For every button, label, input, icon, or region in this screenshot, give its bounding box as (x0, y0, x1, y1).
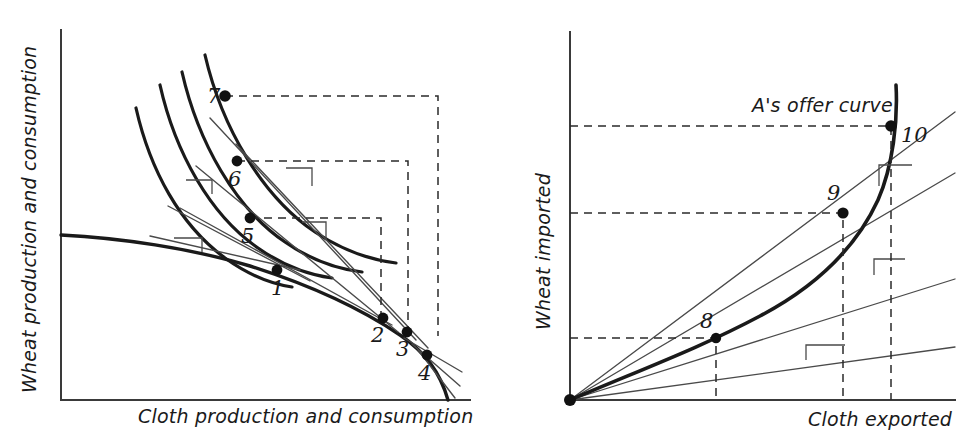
figure-canvas: 1 2 3 4 5 6 7 Cloth production and consu… (0, 0, 977, 447)
point-10-label: 10 (901, 123, 928, 147)
point-2-label: 2 (370, 323, 384, 347)
point-6-label: 6 (228, 167, 241, 191)
right-x-axis-label: Cloth exported (808, 408, 953, 430)
slope-marker-right-3 (806, 345, 845, 360)
left-y-axis-label: Wheat production and consumption (18, 46, 40, 393)
economics-offer-curve-diagram: 1 2 3 4 5 6 7 Cloth production and consu… (0, 0, 977, 447)
slope-marker-right-2 (874, 259, 905, 275)
indifference-curve-1 (136, 108, 292, 287)
point-4-dot (422, 350, 433, 361)
left-panel: 1 2 3 4 5 6 7 Cloth production and consu… (18, 30, 473, 427)
left-x-axis-label: Cloth production and consumption (138, 405, 473, 427)
point-2-dot (378, 313, 389, 324)
point-9-label: 9 (827, 181, 840, 205)
point-9-dot (837, 207, 848, 218)
point-10-dot (885, 120, 897, 132)
point-7-dot (219, 90, 231, 102)
terms-of-trade-ray-3 (570, 279, 955, 400)
dashed-projection-9 (570, 213, 843, 400)
point-5-dot (245, 213, 256, 224)
origin-point-dot (564, 394, 576, 406)
point-7-label: 7 (207, 84, 221, 108)
right-panel: 8 9 10 A's offer curve Cloth exported Wh… (532, 32, 955, 430)
point-3-dot (402, 327, 413, 338)
point-4-label: 4 (417, 361, 431, 385)
offer-curve-label: A's offer curve (750, 94, 893, 116)
right-y-axis-label: Wheat imported (532, 172, 554, 330)
point-6-dot (232, 156, 243, 167)
point-3-label: 3 (396, 337, 409, 361)
terms-of-trade-ray-1 (570, 112, 955, 400)
point-5-label: 5 (241, 224, 254, 248)
offer-curve-A (570, 85, 896, 400)
point-8-label: 8 (700, 309, 713, 333)
price-line-2 (180, 208, 392, 325)
point-8-dot (711, 333, 721, 343)
terms-of-trade-ray-4 (570, 347, 955, 400)
point-1-label: 1 (271, 276, 284, 300)
price-line-2b (196, 166, 398, 332)
price-line-3b (236, 144, 428, 348)
slope-marker-left-3 (286, 168, 312, 186)
terms-of-trade-ray-2 (570, 173, 955, 400)
point-1-dot (272, 265, 283, 276)
